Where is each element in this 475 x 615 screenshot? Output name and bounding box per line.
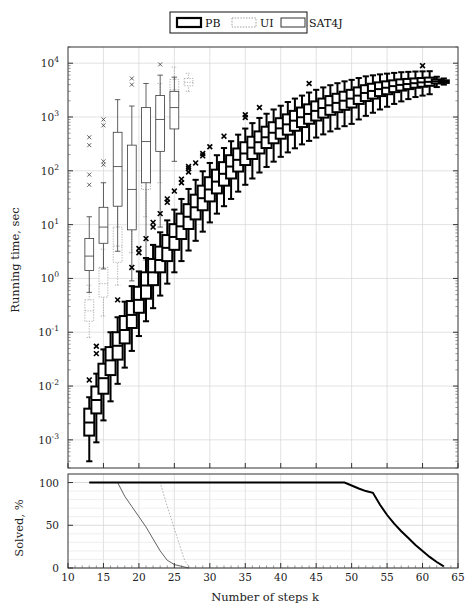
figure-root: PB UI SAT4J 10-310-210-1100101102103104 …	[0, 0, 475, 615]
legend-label-pb: PB	[205, 17, 221, 30]
legend-label-sat4j: SAT4J	[309, 17, 343, 30]
solved-y-tick-label: 0	[52, 562, 59, 574]
box-part	[184, 78, 193, 85]
box-part	[113, 132, 122, 206]
x-tick-label: 10	[61, 571, 74, 583]
x-tick-label: 45	[309, 571, 322, 583]
box-part	[170, 91, 179, 129]
legend-swatch-ui	[232, 18, 256, 27]
boxplot-figure: PB UI SAT4J 10-310-210-1100101102103104 …	[0, 0, 475, 615]
x-tick-label: 15	[97, 571, 110, 583]
x-tick-label: 55	[380, 571, 393, 583]
box-part	[127, 145, 136, 230]
x-axis-label: Number of steps k	[211, 590, 320, 604]
x-tick-label: 35	[239, 571, 252, 583]
x-tick-label: 25	[168, 571, 181, 583]
x-tick-label: 40	[274, 571, 287, 583]
boxplot	[439, 78, 449, 84]
x-tick-label: 65	[451, 571, 464, 583]
legend-swatch-pb	[177, 18, 201, 27]
box-part	[142, 108, 151, 183]
figure-background	[0, 0, 475, 615]
legend-entry-pb: PB	[177, 17, 221, 30]
legend-label-ui: UI	[260, 17, 274, 30]
x-tick-label: 60	[416, 571, 429, 583]
box-part	[99, 267, 108, 297]
box-part	[85, 300, 94, 321]
x-tick-label: 30	[203, 571, 216, 583]
y-axis-label-solved: Solved, %	[12, 499, 26, 556]
solved-y-tick-label: 100	[39, 477, 59, 489]
box-part	[85, 239, 94, 271]
solved-y-tick-label: 50	[46, 519, 59, 531]
box-part	[156, 96, 165, 152]
x-tick-label: 20	[132, 571, 145, 583]
legend-swatch-sat4j	[281, 18, 305, 27]
box-part	[99, 207, 108, 243]
y-axis-label-running-time: Running time, sec	[8, 207, 22, 312]
x-tick-label: 50	[345, 571, 358, 583]
